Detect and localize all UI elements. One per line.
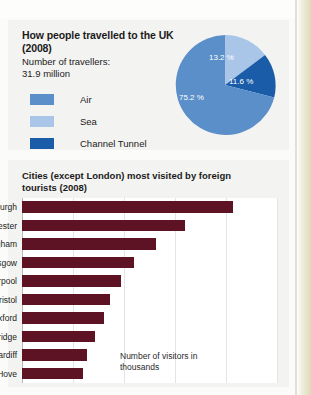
pie-chart-title: How people travelled to the UK (2008) bbox=[22, 29, 182, 54]
legend-swatch-channel-tunnel bbox=[30, 138, 54, 149]
bar-label-cardiff: Cardiff bbox=[0, 346, 17, 364]
bar-label-cambridge: Cambridge bbox=[0, 328, 17, 346]
bar-chart-gridline bbox=[277, 198, 278, 383]
pie-chart-figure: 13.2 % 11.6 % 75.2 % bbox=[171, 31, 279, 139]
pie-value-sea: 13.2 % bbox=[209, 53, 234, 62]
bar-chart-row: Birmingham bbox=[22, 235, 277, 253]
pie-value-air: 75.2 % bbox=[179, 93, 204, 102]
bar-chart-row: Liverpool bbox=[22, 272, 277, 290]
bar-label-edinburgh: Edinburgh bbox=[0, 198, 17, 216]
page-top-margin bbox=[0, 0, 297, 18]
bar-rect bbox=[22, 275, 121, 287]
legend-label-channel-tunnel: Channel Tunnel bbox=[80, 138, 147, 149]
legend-swatch-air bbox=[30, 94, 54, 105]
bar-chart-row: Bristol bbox=[22, 291, 277, 309]
bar-chart-plot-area: EdinburghManchesterBirminghamGlasgowLive… bbox=[22, 198, 277, 383]
legend-item-channel-tunnel: Channel Tunnel bbox=[30, 134, 147, 152]
legend-label-air: Air bbox=[80, 94, 92, 105]
bar-rect bbox=[22, 331, 95, 343]
pie-chart-panel: How people travelled to the UK (2008) Nu… bbox=[8, 20, 289, 150]
legend-item-sea: Sea bbox=[30, 112, 147, 130]
bar-label-bristol: Bristol bbox=[0, 291, 17, 309]
bar-label-glasgow: Glasgow bbox=[0, 254, 17, 272]
bar-label-oxford: Oxford bbox=[0, 309, 17, 327]
bar-chart-row: Edinburgh bbox=[22, 198, 277, 216]
bar-rect bbox=[22, 312, 104, 324]
bar-rect bbox=[22, 201, 233, 213]
legend-swatch-sea bbox=[30, 116, 54, 127]
bar-label-birmingham: Birmingham bbox=[0, 235, 17, 253]
bar-label-brighton-hove: Brighton/Hove bbox=[0, 365, 17, 383]
bar-chart-row: Manchester bbox=[22, 217, 277, 235]
bar-rect bbox=[22, 294, 110, 306]
pie-value-channel-tunnel: 11.6 % bbox=[229, 77, 253, 86]
legend-item-air: Air bbox=[30, 90, 147, 108]
bar-label-manchester: Manchester bbox=[0, 217, 17, 235]
bar-rect bbox=[22, 368, 83, 380]
pie-chart-subtitle: Number of travellers: 31.9 million bbox=[22, 56, 172, 80]
bar-rect bbox=[22, 220, 185, 232]
page-edge bbox=[297, 0, 311, 395]
bar-chart-title: Cities (except London) most visited by f… bbox=[22, 170, 262, 194]
bar-rect bbox=[22, 238, 156, 250]
legend-label-sea: Sea bbox=[80, 116, 97, 127]
bar-chart-row: Oxford bbox=[22, 309, 277, 327]
bar-label-liverpool: Liverpool bbox=[0, 272, 17, 290]
bar-chart-x-axis-label: Number of visitors in thousands bbox=[120, 351, 206, 373]
pie-chart-legend: Air Sea Channel Tunnel bbox=[30, 90, 147, 156]
bar-chart-panel: Cities (except London) most visited by f… bbox=[8, 160, 289, 387]
bar-chart-row: Cambridge bbox=[22, 328, 277, 346]
bar-chart-row: Glasgow bbox=[22, 254, 277, 272]
pie-chart-svg bbox=[171, 31, 279, 139]
bar-rect bbox=[22, 349, 87, 361]
bar-rect bbox=[22, 257, 134, 269]
